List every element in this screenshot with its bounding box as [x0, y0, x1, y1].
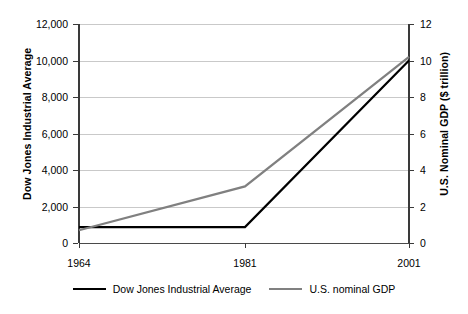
- y-axis-right-tick: [409, 61, 414, 62]
- series-line-us-gdp: [79, 57, 409, 230]
- y-axis-left-tick: [73, 207, 78, 208]
- y-axis-right-title: U.S. Nominal GDP ($ trillion): [439, 34, 451, 214]
- y-axis-right-tick: [409, 134, 414, 135]
- y-axis-left-tick-label: 12,000: [0, 18, 68, 30]
- x-axis-tick: [245, 243, 246, 248]
- y-axis-left-tick-label: 2,000: [0, 201, 68, 213]
- plot-area: [79, 24, 409, 243]
- y-axis-left-tick-label: 8,000: [0, 91, 68, 103]
- legend-item-label: Dow Jones Industrial Average: [113, 283, 252, 295]
- y-axis-right-tick-label: 2: [420, 201, 426, 213]
- y-axis-right-tick-label: 6: [420, 128, 426, 140]
- y-axis-left-tick-label: 10,000: [0, 55, 68, 67]
- legend-item-label: U.S. nominal GDP: [309, 283, 395, 295]
- chart-legend: Dow Jones Industrial AverageU.S. nominal…: [0, 283, 468, 295]
- x-axis-tick: [409, 243, 410, 248]
- legend-item[interactable]: Dow Jones Industrial Average: [73, 283, 252, 295]
- series-lines-group: [79, 24, 409, 243]
- y-axis-right-tick: [409, 97, 414, 98]
- y-axis-left-tick: [73, 134, 78, 135]
- chart-figure: Dow Jones Industrial Average U.S. Nomina…: [0, 0, 468, 314]
- x-axis-tick-label: 1964: [67, 257, 90, 269]
- x-axis-tick-label: 1981: [233, 257, 256, 269]
- y-axis-left-tick: [73, 97, 78, 98]
- series-line-dow-jones: [79, 61, 409, 228]
- y-axis-right-tick: [409, 170, 414, 171]
- y-axis-right-tick-label: 4: [420, 164, 426, 176]
- x-axis-tick: [79, 243, 80, 248]
- y-axis-left-tick-label: 6,000: [0, 128, 68, 140]
- y-axis-right-tick: [409, 24, 414, 25]
- legend-line-swatch-icon: [73, 288, 106, 290]
- y-axis-left-tick-label: 0: [0, 237, 68, 249]
- legend-item[interactable]: U.S. nominal GDP: [269, 283, 395, 295]
- y-axis-left-tick-label: 4,000: [0, 164, 68, 176]
- x-axis-tick-label: 2001: [397, 257, 420, 269]
- y-axis-right-tick-label: 10: [420, 55, 432, 67]
- y-axis-left-tick: [73, 61, 78, 62]
- y-axis-right-tick-label: 8: [420, 91, 426, 103]
- y-axis-left-tick: [73, 243, 78, 244]
- y-axis-right-tick-label: 12: [420, 18, 432, 30]
- y-axis-left-tick: [73, 24, 78, 25]
- legend-line-swatch-icon: [269, 288, 302, 290]
- y-axis-right-tick-label: 0: [420, 237, 426, 249]
- y-axis-left-tick: [73, 170, 78, 171]
- y-axis-right-tick: [409, 207, 414, 208]
